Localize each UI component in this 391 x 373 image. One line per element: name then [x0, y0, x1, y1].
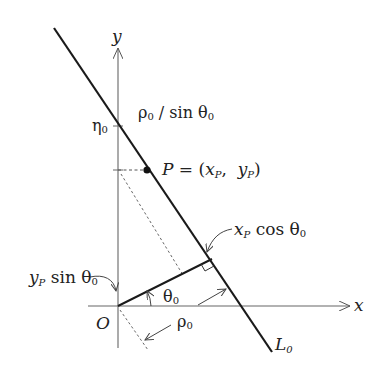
normal-line-diagram: y x O η0 ρ0 / sin θ0 P = (xP, yP) xP cos… — [0, 0, 391, 373]
dashed-rho-extension — [120, 310, 148, 350]
y-axis-label: y — [111, 26, 122, 46]
rho-label: ρ0 — [177, 312, 193, 331]
rho-arrow-upper — [198, 289, 226, 305]
yp-sin-label: yP sin θ0 — [28, 267, 98, 288]
x-axis-label: x — [354, 295, 364, 315]
origin-label: O — [96, 313, 110, 333]
point-P — [143, 166, 150, 173]
right-angle-marker — [201, 264, 214, 271]
intercept-expression: ρ0 / sin θ0 — [138, 103, 214, 122]
point-P-label: P = (xP, yP) — [161, 159, 261, 180]
eta-label: η0 — [92, 116, 108, 135]
xp-cos-leader — [207, 229, 232, 252]
theta-label: θ0 — [163, 287, 179, 306]
theta-arc — [147, 291, 151, 306]
xp-cos-label: xP cos θ0 — [234, 219, 306, 240]
line-L0-label: L0 — [274, 334, 293, 355]
rho-arrow-lower — [145, 325, 171, 340]
dashed-projection — [121, 174, 183, 275]
